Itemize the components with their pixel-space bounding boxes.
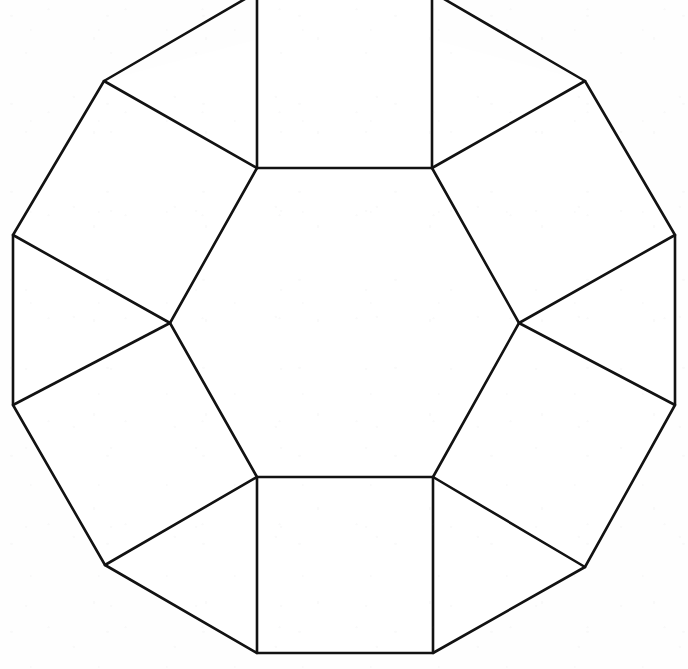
- geometric-figure-canvas: [0, 0, 688, 669]
- geometric-figure-svg: [0, 0, 688, 669]
- square-bottom-face: [257, 477, 433, 653]
- face-fills: [13, 0, 675, 653]
